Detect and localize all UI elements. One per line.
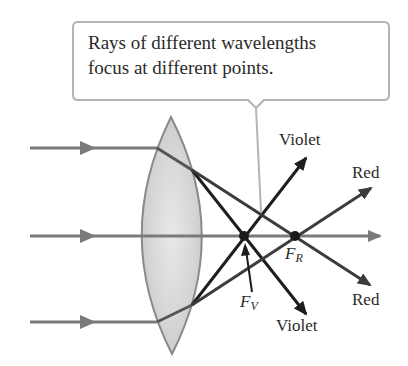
label-focal-red: FR [285, 244, 303, 266]
focal-point-red [290, 231, 300, 241]
fv-pointer-arrow-icon [241, 243, 250, 256]
red-ray-top [192, 170, 370, 285]
focal-violet-main: F [240, 292, 250, 311]
focal-point-violet [239, 231, 249, 241]
callout-line-1: Rays of different wavelengths [88, 30, 388, 55]
label-violet-upper: Violet [279, 130, 320, 150]
chromatic-aberration-diagram: Rays of different wavelengths focus at d… [0, 0, 408, 366]
focal-red-sub: R [295, 251, 302, 265]
incident-ray-top-arrow-icon [80, 141, 96, 155]
label-focal-violet: FV [240, 292, 258, 314]
incident-ray-bottom-arrow-icon [80, 315, 96, 329]
callout-leader-line [256, 108, 261, 212]
label-red-upper: Red [352, 163, 379, 183]
label-red-lower: Red [352, 290, 379, 310]
label-violet-lower: Violet [276, 316, 317, 336]
optical-axis-arrow-icon [80, 229, 96, 243]
callout-text: Rays of different wavelengths focus at d… [88, 30, 388, 80]
fv-pointer-line [246, 250, 252, 292]
focal-red-main: F [285, 244, 295, 263]
callout-line-2: focus at different points. [88, 55, 388, 80]
focal-violet-sub: V [250, 299, 257, 313]
